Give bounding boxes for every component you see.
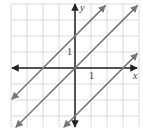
x-axis-label: x xyxy=(133,71,137,81)
coordinate-plane xyxy=(0,0,143,130)
x-tick-label-1: 1 xyxy=(89,71,94,81)
y-tick-label-1: 1 xyxy=(67,47,72,57)
line-series-1 xyxy=(16,6,138,128)
y-axis-label: y xyxy=(80,3,84,13)
